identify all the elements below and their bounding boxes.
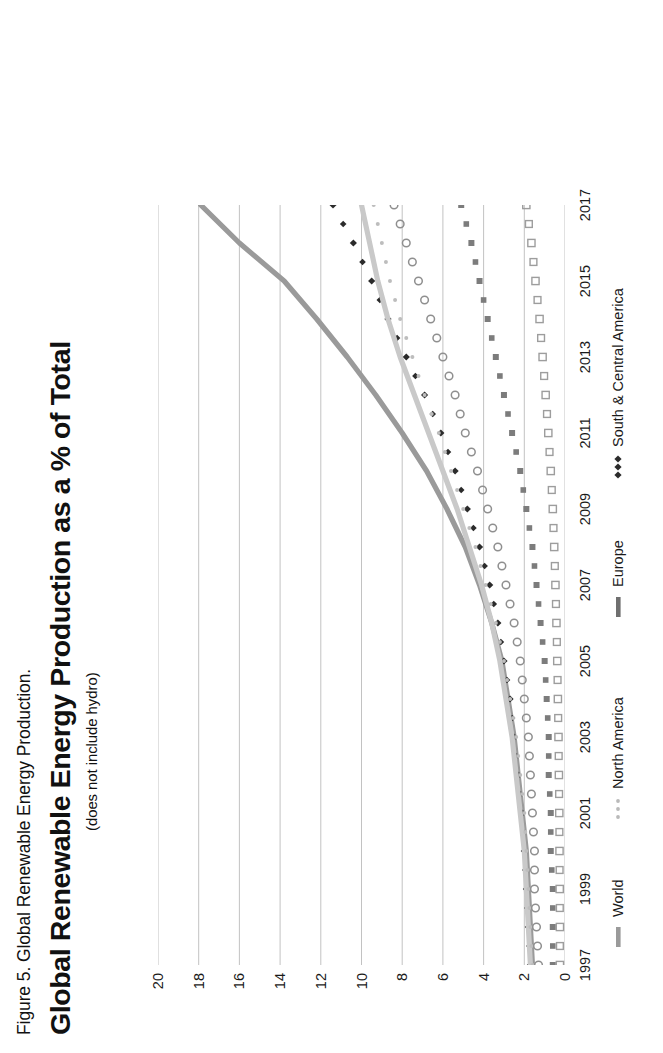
legend-thick-line-icon: [611, 593, 625, 619]
y-tick-label: 4: [476, 973, 492, 999]
y-tick-label: 20: [150, 973, 166, 999]
chart-svg: [158, 205, 565, 965]
y-tick-label: 18: [191, 973, 207, 999]
y-tick-label: 2: [516, 973, 532, 999]
chart-plot-area: 02468101214161820 1997199920012003200520…: [158, 205, 565, 965]
x-tick-label: 2001: [577, 797, 593, 829]
series-south-central-america: [329, 205, 534, 965]
legend-label: South & Central America: [610, 288, 626, 447]
legend-thick-line-icon: [611, 923, 625, 949]
figure-caption: Figure 5. Global Renewable Energy Produc…: [14, 669, 35, 1035]
x-tick-label: 2017: [577, 189, 593, 221]
gridlines: [158, 205, 565, 965]
figure-stage: Figure 5. Global Renewable Energy Produc…: [0, 0, 663, 1053]
x-tick-label: 1999: [577, 873, 593, 905]
legend-item[interactable]: World: [610, 879, 626, 949]
chart-legend: World North AmericaEurope South & Centra…: [610, 49, 650, 949]
y-tick-label: 8: [394, 973, 410, 999]
y-tick-label: 10: [354, 973, 370, 999]
x-tick-label: 2011: [577, 417, 593, 448]
chart-subtitle: (does not include hydro): [83, 672, 100, 831]
legend-dotted-round-icon: [611, 795, 625, 821]
legend-label: World: [610, 879, 626, 917]
y-tick-label: 0: [557, 973, 573, 999]
legend-item[interactable]: Europe: [610, 540, 626, 619]
x-tick-label: 2005: [577, 645, 593, 677]
y-tick-label: 16: [231, 973, 247, 999]
legend-label: Europe: [610, 540, 626, 587]
series-asia-pacific: [458, 205, 556, 965]
x-tick-label: 1997: [577, 949, 593, 981]
y-tick-label: 6: [435, 973, 451, 999]
x-tick-label: 2013: [577, 341, 593, 373]
legend-diamond-icon: [611, 453, 625, 479]
series-europe: [362, 205, 531, 965]
legend-item[interactable]: South & Central America: [610, 288, 626, 479]
y-tick-label: 12: [313, 973, 329, 999]
series-layer: [201, 205, 564, 965]
legend-label: North America: [610, 697, 626, 789]
x-tick-label: 2007: [577, 569, 593, 601]
chart-title: Global Renewable Energy Production as a …: [44, 341, 77, 1035]
y-tick-label: 14: [272, 973, 288, 999]
x-tick-label: 2009: [577, 493, 593, 525]
legend-item[interactable]: North America: [610, 697, 626, 821]
x-tick-label: 2003: [577, 721, 593, 753]
series-north-america: [390, 205, 542, 965]
x-tick-label: 2015: [577, 265, 593, 297]
